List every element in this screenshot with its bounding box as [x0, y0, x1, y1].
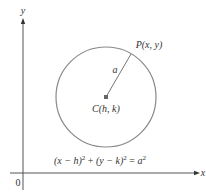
point-p-label: P(x, y)	[135, 39, 163, 51]
y-axis-arrow-icon	[21, 18, 25, 24]
x-axis-label: x	[200, 167, 206, 178]
equation-term-x: (x − h)	[54, 155, 83, 167]
origin-label: 0	[16, 177, 21, 188]
x-axis-arrow-icon	[194, 171, 200, 175]
radius-label: a	[113, 64, 118, 75]
y-axis-label: y	[20, 5, 26, 16]
equation-equals: =	[127, 155, 138, 166]
center-c-label: C(h, k)	[92, 103, 120, 115]
equation-exp-3: 2	[142, 154, 146, 162]
radius-line	[106, 54, 131, 97]
circle-equation-diagram: y x 0 a P(x, y) C(h, k) (x − h)2 + (y − …	[0, 0, 206, 193]
equation-plus: +	[85, 155, 96, 166]
y-axis: y	[20, 5, 26, 190]
equation-term-y: (y − k)	[96, 155, 124, 167]
x-axis: x	[10, 167, 206, 178]
circle-equation: (x − h)2 + (y − k)2 = a2	[54, 154, 146, 167]
center-point-icon	[104, 95, 108, 99]
